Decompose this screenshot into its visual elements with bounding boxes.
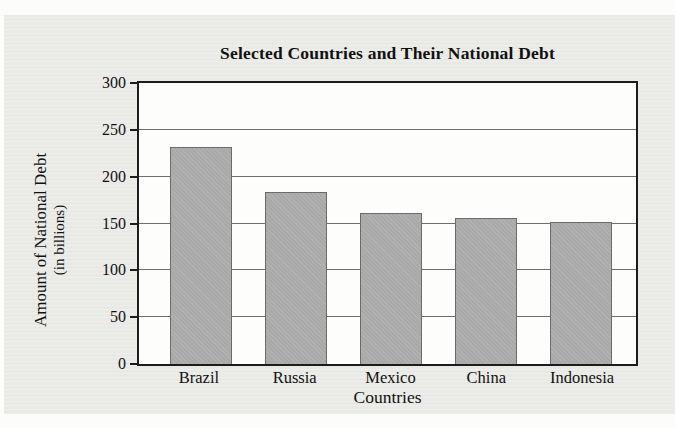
y-tick-labels: 050100150200250300 [62, 83, 126, 364]
y-tick-marks [130, 83, 137, 364]
y-tick-mark-100 [130, 269, 137, 271]
bar-mexico [360, 213, 422, 364]
y-tick-label-150: 150 [62, 216, 126, 232]
x-category-label-russia: Russia [247, 370, 343, 387]
y-tick-mark-200 [130, 176, 137, 178]
bar-slot-mexico [343, 83, 438, 364]
x-category-label-mexico: Mexico [343, 370, 439, 387]
bar-slot-china [438, 83, 533, 364]
bar-slot-russia [248, 83, 343, 364]
y-tick-mark-250 [130, 129, 137, 131]
plot-area [137, 81, 638, 366]
y-tick-label-200: 200 [62, 169, 126, 185]
bar-slot-brazil [153, 83, 248, 364]
bar-slot-indonesia [533, 83, 628, 364]
bar-series [139, 83, 636, 364]
x-axis-title: Countries [137, 389, 638, 407]
x-category-labels: BrazilRussiaMexicoChinaIndonesia [137, 370, 638, 387]
bar-russia [265, 192, 327, 364]
bar-china [455, 218, 517, 364]
y-tick-label-300: 300 [62, 75, 126, 91]
y-tick-label-250: 250 [62, 122, 126, 138]
x-category-label-indonesia: Indonesia [534, 370, 630, 387]
x-category-label-china: China [438, 370, 534, 387]
page: Selected Countries and Their National De… [0, 0, 675, 428]
y-tick-label-0: 0 [62, 356, 126, 372]
y-tick-mark-150 [130, 223, 137, 225]
y-tick-label-100: 100 [62, 262, 126, 278]
y-tick-mark-0 [130, 363, 137, 365]
y-tick-label-50: 50 [62, 309, 126, 325]
chart-title: Selected Countries and Their National De… [137, 43, 638, 64]
y-axis-title-main: Amount of National Debt [31, 90, 51, 390]
chart-panel: Selected Countries and Their National De… [4, 15, 675, 414]
y-tick-mark-50 [130, 316, 137, 318]
bar-indonesia [550, 222, 612, 364]
bar-brazil [170, 147, 232, 364]
y-tick-mark-300 [130, 82, 137, 84]
x-category-label-brazil: Brazil [151, 370, 247, 387]
